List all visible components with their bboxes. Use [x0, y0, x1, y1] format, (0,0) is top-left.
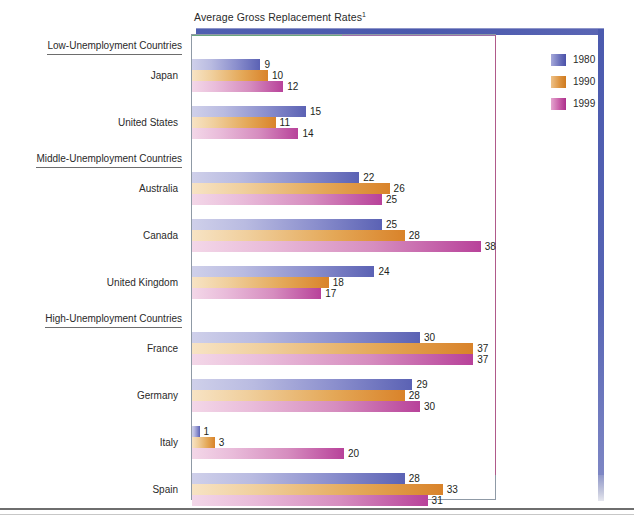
bar-italy-1990 [192, 437, 215, 448]
category-label-australia: Australia [139, 183, 178, 195]
bar-united-states-1980 [192, 106, 306, 117]
bars-layer: 9101215111422262525283824181730373729283… [192, 34, 496, 500]
bar-value-spain-1990: 33 [447, 484, 458, 495]
decorative-right-bar-shadow [598, 475, 604, 501]
category-label-japan: Japan [151, 70, 178, 82]
bar-value-australia-1980: 22 [363, 172, 374, 183]
bar-value-spain-1999: 31 [432, 495, 443, 506]
group-header-middle-unemployment-countries: Middle-Unemployment Countries [36, 153, 182, 168]
page-rule-secondary [0, 514, 634, 515]
bar-united-kingdom-1999 [192, 288, 321, 299]
legend-item-1980[interactable]: 1980 [551, 52, 611, 74]
category-label-united-kingdom: United Kingdom [107, 277, 178, 289]
bar-canada-1980 [192, 219, 382, 230]
bar-value-germany-1990: 28 [409, 390, 420, 401]
bar-value-united-kingdom-1990: 18 [333, 277, 344, 288]
bar-japan-1980 [192, 59, 260, 70]
bar-canada-1999 [192, 241, 481, 252]
category-label-canada: Canada [143, 230, 178, 242]
bar-value-united-kingdom-1999: 17 [325, 288, 336, 299]
bar-italy-1999 [192, 448, 344, 459]
bar-germany-1980 [192, 379, 412, 390]
category-label-germany: Germany [137, 390, 178, 402]
bar-spain-1999 [192, 495, 428, 506]
legend-label-1999: 1999 [573, 97, 595, 110]
bar-spain-1990 [192, 484, 443, 495]
bar-value-australia-1990: 26 [394, 183, 405, 194]
bar-united-kingdom-1990 [192, 277, 329, 288]
bar-japan-1990 [192, 70, 268, 81]
category-label-column: Low-Unemployment CountriesJapanUnited St… [0, 34, 186, 500]
bar-united-states-1999 [192, 128, 298, 139]
page-rule-primary [0, 508, 634, 510]
bar-value-japan-1980: 9 [264, 59, 270, 70]
legend-item-1990[interactable]: 1990 [551, 74, 611, 96]
bar-france-1980 [192, 332, 420, 343]
bar-germany-1990 [192, 390, 405, 401]
bar-value-spain-1980: 28 [409, 473, 420, 484]
chart-title-footnote-marker: 1 [362, 11, 366, 18]
bar-value-france-1990: 37 [477, 343, 488, 354]
legend-swatch-1990 [551, 76, 566, 88]
bar-france-1999 [192, 354, 473, 365]
bar-value-france-1980: 30 [424, 332, 435, 343]
group-header-low-unemployment-countries: Low-Unemployment Countries [47, 40, 182, 55]
category-label-spain: Spain [152, 484, 178, 496]
bar-japan-1999 [192, 81, 283, 92]
legend-swatch-1999 [551, 98, 566, 110]
bar-australia-1990 [192, 183, 390, 194]
bar-value-united-kingdom-1980: 24 [378, 266, 389, 277]
category-label-united-states: United States [118, 117, 178, 129]
chart-legend: 198019901999 [551, 52, 611, 118]
bar-spain-1980 [192, 473, 405, 484]
bar-australia-1980 [192, 172, 359, 183]
bar-value-italy-1980: 1 [204, 426, 210, 437]
bar-value-germany-1980: 29 [416, 379, 427, 390]
bar-value-japan-1990: 10 [272, 70, 283, 81]
bar-value-united-states-1980: 15 [310, 106, 321, 117]
bar-value-canada-1999: 38 [485, 241, 496, 252]
legend-label-1980: 1980 [573, 53, 595, 66]
bar-united-kingdom-1980 [192, 266, 374, 277]
bar-value-united-states-1990: 11 [280, 117, 290, 128]
legend-item-1999[interactable]: 1999 [551, 96, 611, 118]
bar-france-1990 [192, 343, 473, 354]
category-label-france: France [147, 343, 178, 355]
bar-value-italy-1990: 3 [219, 437, 225, 448]
chart-title: Average Gross Replacement Rates1 [194, 11, 366, 24]
bar-italy-1980 [192, 426, 200, 437]
bar-value-united-states-1999: 14 [302, 128, 313, 139]
bar-value-japan-1999: 12 [287, 81, 298, 92]
bar-canada-1990 [192, 230, 405, 241]
bar-value-australia-1999: 25 [386, 194, 397, 205]
legend-label-1990: 1990 [573, 75, 595, 88]
bar-germany-1999 [192, 401, 420, 412]
bar-value-canada-1990: 28 [409, 230, 420, 241]
bar-united-states-1990 [192, 117, 276, 128]
group-header-high-unemployment-countries: High-Unemployment Countries [45, 313, 182, 328]
bar-value-italy-1999: 20 [348, 448, 359, 459]
legend-swatch-1980 [551, 54, 566, 66]
bar-value-france-1999: 37 [477, 354, 488, 365]
bar-value-germany-1999: 30 [424, 401, 435, 412]
chart-title-text: Average Gross Replacement Rates [194, 11, 362, 23]
bar-australia-1999 [192, 194, 382, 205]
category-label-italy: Italy [160, 437, 178, 449]
bar-value-canada-1980: 25 [386, 219, 397, 230]
